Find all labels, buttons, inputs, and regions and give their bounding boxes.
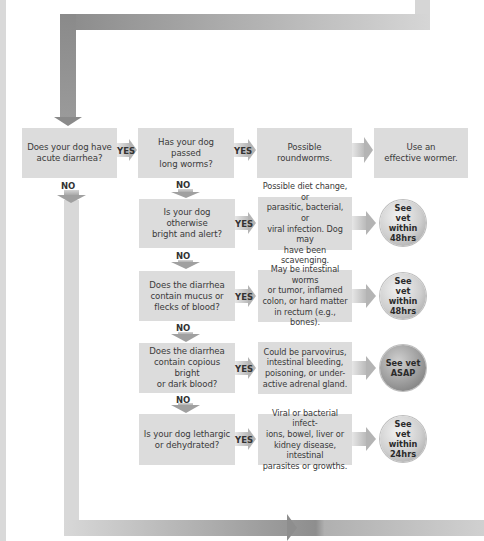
action-badge-vet-24hrs: See vet within 24hrs [380,416,426,462]
yes-label: YES [235,364,253,374]
result-viral-bacterial: Viral or bacterial infect- ions, bowel, … [258,414,352,465]
action-badge-vet-48hrs: See vet within 48hrs [380,273,426,319]
result-intestinal-worms: May be intestinal worms or tumor, inflam… [258,270,352,322]
action-use-wormer: Use an effective wormer. [374,128,468,178]
result-diet-change: Possible diet change, or parasitic, bact… [258,197,352,250]
yes-label: YES [117,146,135,156]
yes-label: YES [235,292,253,302]
no-label: NO [61,181,75,191]
yes-label: YES [235,435,253,445]
action-badge-vet-asap: See vet ASAP [380,345,426,391]
no-label: NO [176,180,190,190]
question-acute-diarrhea: Does your dog have acute diarrhea? [22,128,117,178]
question-long-worms: Has your dog passed long worms? [138,128,234,178]
action-badge-vet-48hrs: See vet within 48hrs [380,200,426,246]
question-mucus-blood: Does the diarrhea contain mucus or fleck… [139,271,235,321]
no-label: NO [176,395,190,405]
yes-label: YES [234,146,252,156]
no-label: NO [176,251,190,261]
result-roundworms: Possible roundworms. [257,128,352,178]
yes-label: YES [235,219,253,229]
question-bright-alert: Is your dog otherwise bright and alert? [139,199,235,248]
question-copious-blood: Does the diarrhea contain copious bright… [139,343,235,393]
result-parvovirus: Could be parvovirus, intestinal bleeding… [258,342,352,394]
question-lethargic: Is your dog lethargic or dehydrated? [139,414,235,465]
no-label: NO [176,323,190,333]
